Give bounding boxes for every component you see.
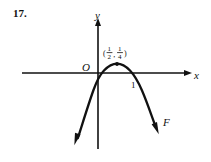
vertex-point-marker [115, 62, 119, 66]
vertex-coordinate-label: ( 1 2 , 1 4 ) [103, 45, 127, 61]
figure-page: 17. O y x 1 F [0, 0, 211, 162]
vertex-close-paren: ) [124, 49, 127, 58]
vertex-x-denominator: 2 [108, 53, 112, 61]
x-axis-label: x [193, 69, 199, 81]
curve-label-F: F [162, 116, 170, 128]
vertex-open-paren: ( [103, 49, 106, 58]
parabola-curve [74, 64, 159, 146]
vertex-y-numerator: 1 [118, 45, 122, 53]
parabola-figure: O y x 1 F ( 1 2 , 1 4 ) [0, 0, 211, 162]
vertex-comma: , [113, 50, 115, 59]
vertex-x-numerator: 1 [108, 45, 112, 53]
vertex-y-denominator: 4 [118, 53, 122, 61]
x-tick-label-1: 1 [131, 80, 136, 90]
origin-label: O [82, 61, 90, 73]
x-axis [22, 70, 192, 76]
y-axis-label: y [94, 9, 100, 21]
